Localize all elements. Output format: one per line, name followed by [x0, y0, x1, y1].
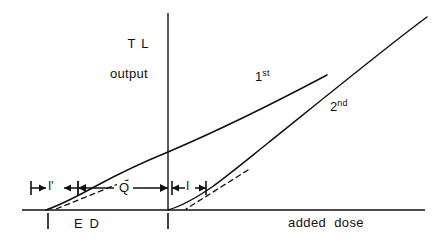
curve-label-second: 2nd: [330, 98, 348, 115]
figure-canvas: [0, 0, 441, 247]
i-span-right-arrowhead: [199, 185, 206, 192]
annotation-label-q: Q: [117, 181, 131, 196]
i-prime-right-arrowhead: [64, 185, 71, 192]
y-axis-title-line1: T L: [127, 36, 149, 51]
q-span-left-arrowhead: [78, 184, 86, 192]
i-prime-left-arrowhead: [39, 185, 46, 192]
y-axis-title-line2: output: [96, 67, 162, 82]
i-span-left-arrowhead: [172, 185, 179, 192]
curve-label-second-superscript: nd: [337, 98, 347, 108]
x-axis-title: added dose: [288, 216, 364, 231]
y-axis-title: T L output: [96, 22, 162, 112]
curve-second-extrapolation: [186, 170, 248, 209]
annotation-label-i-prime-mark: ': [51, 179, 53, 193]
curve-second: [168, 17, 427, 210]
q-span-right-arrowhead: [160, 184, 168, 192]
annotation-label-i-prime: I': [48, 180, 54, 194]
annotation-label-i: I: [186, 180, 189, 194]
curve-label-first: 1st: [255, 68, 270, 85]
annotation-label-ed: E D: [74, 217, 100, 232]
figure-root: T L output 1st 2nd I' Q I E D added dose: [0, 0, 441, 247]
curve-label-first-superscript: st: [262, 68, 269, 78]
